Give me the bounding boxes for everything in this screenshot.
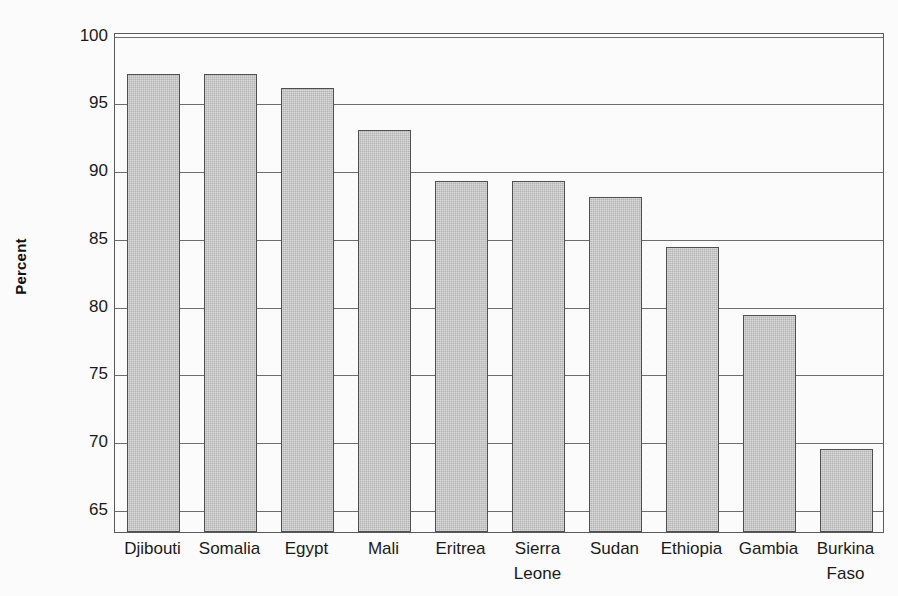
- y-tick-label: 95: [50, 93, 108, 113]
- x-tick-label-line: Djibouti: [124, 539, 181, 558]
- bar: [281, 88, 335, 532]
- bar: [589, 197, 643, 532]
- bar: [743, 315, 797, 532]
- x-tick-label: SierraLeone: [514, 536, 561, 586]
- x-tick-label: Djibouti: [124, 536, 181, 561]
- x-tick-label-line: Mali: [368, 539, 399, 558]
- x-tick-label-line: Gambia: [739, 539, 799, 558]
- bar: [666, 247, 720, 532]
- x-tick-label-line: Burkina: [817, 539, 875, 558]
- x-tick-label: Gambia: [739, 536, 799, 561]
- y-axis-title-text: Percent: [12, 238, 29, 294]
- y-axis-tick-labels: 65707580859095100: [46, 0, 108, 596]
- x-tick-label-line: Somalia: [199, 539, 260, 558]
- x-tick-label-line: Eritrea: [435, 539, 485, 558]
- x-tick-label-line: Sudan: [590, 539, 639, 558]
- y-tick-label: 90: [50, 161, 108, 181]
- x-tick-label: Egypt: [285, 536, 328, 561]
- bar: [435, 181, 489, 532]
- x-axis-tick-labels: DjiboutiSomaliaEgyptMaliEritreaSierraLeo…: [114, 536, 884, 596]
- bar-chart: Percent 65707580859095100 DjiboutiSomali…: [0, 0, 898, 596]
- x-tick-label-line: Faso: [817, 561, 875, 586]
- bar: [204, 74, 258, 532]
- bar: [127, 74, 181, 532]
- x-tick-label: BurkinaFaso: [817, 536, 875, 586]
- bar: [512, 181, 566, 532]
- bars-layer: [115, 34, 883, 532]
- x-tick-label: Somalia: [199, 536, 260, 561]
- y-axis-title: Percent: [0, 0, 40, 533]
- x-tick-label-line: Ethiopia: [661, 539, 722, 558]
- x-tick-label: Eritrea: [435, 536, 485, 561]
- y-tick-label: 80: [50, 297, 108, 317]
- x-tick-label-line: Egypt: [285, 539, 328, 558]
- plot-area: [114, 33, 884, 533]
- y-tick-label: 65: [50, 500, 108, 520]
- y-tick-label: 85: [50, 229, 108, 249]
- x-tick-label: Mali: [368, 536, 399, 561]
- x-tick-label-line: Leone: [514, 561, 561, 586]
- x-tick-label-line: Sierra: [515, 539, 560, 558]
- y-tick-label: 70: [50, 432, 108, 452]
- x-tick-label: Ethiopia: [661, 536, 722, 561]
- bar: [358, 130, 412, 532]
- y-tick-label: 75: [50, 364, 108, 384]
- x-tick-label: Sudan: [590, 536, 639, 561]
- bar: [820, 449, 874, 532]
- y-tick-label: 100: [50, 26, 108, 46]
